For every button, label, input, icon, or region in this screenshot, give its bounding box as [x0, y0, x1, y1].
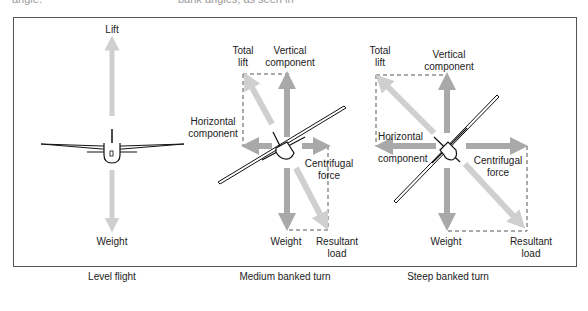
label-centrifugal-2: force — [487, 167, 510, 178]
label-total-lift-2: lift — [238, 57, 248, 68]
label-weight: Weight — [431, 236, 462, 247]
caption-steep-banked-turn: Steep banked turn — [407, 271, 489, 282]
panel-medium-banked-turn: Total lift Vertical component Horizontal… — [188, 45, 358, 282]
label-horizontal-1: Horizontal — [190, 116, 235, 127]
label-vertical-2: component — [424, 61, 474, 72]
forces-diagram: Lift Weight Level flight Total lift Vert… — [0, 0, 588, 311]
airplane-level-icon — [41, 129, 184, 163]
total-lift-arrow — [382, 81, 434, 133]
label-weight: Weight — [271, 236, 302, 247]
label-total-lift-1: Total — [369, 45, 390, 56]
label-centrifugal-1: Centrifugal — [474, 155, 522, 166]
label-vertical-1: Vertical — [433, 49, 466, 60]
label-vertical-1: Vertical — [274, 45, 307, 56]
panel-steep-banked-turn: Total lift Vertical component Horizontal… — [369, 45, 552, 282]
panel-level-flight: Lift Weight Level flight — [41, 24, 184, 282]
label-total-lift-2: lift — [375, 57, 385, 68]
caption-level-flight: Level flight — [88, 271, 136, 282]
label-weight: Weight — [97, 236, 128, 247]
label-resultant-1: Resultant — [316, 236, 358, 247]
label-vertical-2: component — [265, 57, 315, 68]
label-horizontal-2: component — [378, 153, 428, 164]
label-resultant-1: Resultant — [510, 236, 552, 247]
label-centrifugal-1: Centrifugal — [305, 158, 353, 169]
caption-medium-banked-turn: Medium banked turn — [239, 271, 330, 282]
label-lift: Lift — [105, 24, 119, 35]
label-horizontal-2: component — [188, 128, 238, 139]
label-resultant-2: load — [328, 248, 347, 259]
label-resultant-2: load — [522, 248, 541, 259]
label-horizontal-1: Horizontal — [378, 131, 423, 142]
label-total-lift-1: Total — [232, 45, 253, 56]
label-centrifugal-2: force — [318, 170, 341, 181]
total-lift-arrow — [248, 80, 272, 124]
